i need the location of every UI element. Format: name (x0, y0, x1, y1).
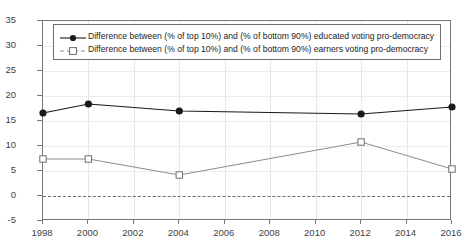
y-tick-label: 20 (0, 90, 16, 100)
line-chart: 35302520151050-5 19982000200220042006200… (0, 0, 473, 251)
x-tick-label: 2016 (431, 228, 471, 238)
y-tick-label: 15 (0, 115, 16, 125)
data-point-marker-filled-circle (358, 110, 365, 117)
legend-item-earners: Difference between (% of top 10%) and (%… (58, 42, 434, 55)
x-tick-label: 2010 (295, 228, 335, 238)
x-tick-label: 1998 (22, 228, 62, 238)
x-tick-label: 2008 (249, 228, 289, 238)
x-tick-label: 2004 (158, 228, 198, 238)
x-tick-label: 2012 (340, 228, 380, 238)
x-tick-label: 2014 (386, 228, 426, 238)
x-tick-label: 2006 (204, 228, 244, 238)
legend-label-educated: Difference between (% of top 10%) and (%… (88, 31, 434, 41)
data-point-marker-filled-circle (176, 107, 183, 114)
legend-label-earners: Difference between (% of top 10%) and (%… (88, 44, 428, 54)
data-point-marker-open-square (176, 172, 182, 178)
series-line (43, 142, 452, 175)
data-point-marker-filled-circle (85, 100, 92, 107)
x-tick-label: 2002 (113, 228, 153, 238)
y-tick-label: -5 (0, 215, 16, 225)
data-point-marker-open-square (85, 156, 91, 162)
data-point-marker-filled-circle (39, 109, 46, 116)
data-point-marker-filled-circle (448, 103, 455, 110)
y-tick-label: 35 (0, 15, 16, 25)
data-point-marker-open-square (358, 139, 364, 145)
y-tick-label: 25 (0, 65, 16, 75)
data-point-marker-open-square (449, 166, 455, 172)
chart-legend: Difference between (% of top 10%) and (%… (53, 24, 441, 60)
y-tick-label: 5 (0, 165, 16, 175)
y-tick-label: 10 (0, 140, 16, 150)
data-point-marker-open-square (40, 156, 46, 162)
x-tick-label: 2000 (67, 228, 107, 238)
y-tick-label: 0 (0, 190, 16, 200)
filled-circle-marker-icon (58, 30, 88, 42)
y-tick-label: 30 (0, 40, 16, 50)
series-line (43, 104, 452, 114)
legend-item-educated: Difference between (% of top 10%) and (%… (58, 29, 434, 42)
open-square-marker-icon (58, 43, 88, 55)
